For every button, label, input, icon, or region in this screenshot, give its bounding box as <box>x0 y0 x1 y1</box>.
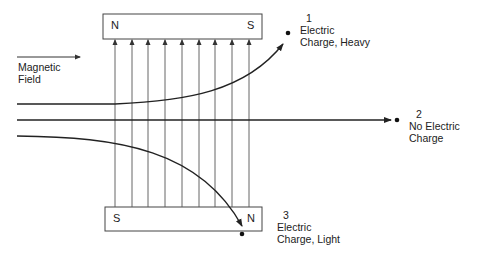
path-2-label-line2: Charge <box>409 132 460 144</box>
path-3-label-line2: Charge, Light <box>277 233 340 245</box>
field-lines <box>115 40 249 207</box>
path-1-label-line2: Charge, Heavy <box>300 36 370 48</box>
magnetic-field-label: Magnetic Field <box>18 61 61 85</box>
magnetic-field-label-line1: Magnetic <box>18 61 61 73</box>
path-2-number: 2 <box>409 108 460 120</box>
path-3-number: 3 <box>277 209 340 221</box>
path-1-label-line1: Electric <box>300 24 370 36</box>
path-3-label-line1: Electric <box>277 221 340 233</box>
path-1-number: 1 <box>300 12 370 24</box>
top-magnet <box>103 14 262 39</box>
path-3-label: 3 Electric Charge, Light <box>277 209 340 245</box>
path-1-label: 1 Electric Charge, Heavy <box>300 12 370 48</box>
path-2-label-line1: No Electric <box>409 120 460 132</box>
path-3-dot <box>240 232 245 237</box>
path-1-dot <box>286 31 291 36</box>
path-2-label: 2 No Electric Charge <box>409 108 460 144</box>
path-2-dot <box>395 118 400 123</box>
bottom-magnet-right-pole: N <box>247 212 255 224</box>
top-magnet-right-pole: S <box>247 19 254 31</box>
bottom-magnet-left-pole: S <box>113 212 120 224</box>
top-magnet-left-pole: N <box>111 19 119 31</box>
magnetic-field-label-line2: Field <box>18 73 61 85</box>
